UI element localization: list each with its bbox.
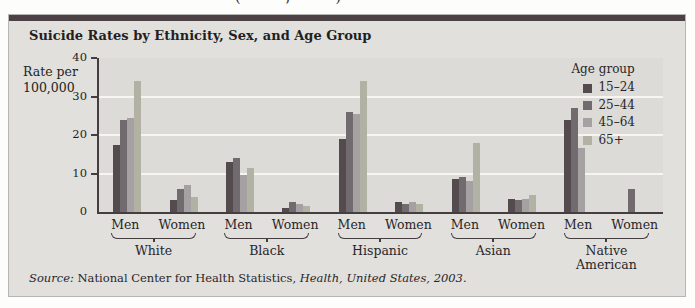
sex-label: Men [210, 217, 267, 232]
sex-label: Women [267, 217, 324, 232]
group-brace-black [224, 233, 309, 239]
bar-65+ [191, 197, 198, 212]
sex-label-pair-hispanic: MenWomen [323, 217, 436, 232]
legend-item-45–64: 45–64 [583, 114, 635, 131]
y-tick-label: 0 [80, 204, 87, 218]
y-tick-mark [91, 134, 97, 136]
y-axis-labels: 010203040 [63, 58, 91, 212]
y-tick-mark [91, 57, 97, 59]
legend-swatch [583, 84, 592, 93]
y-tick-label: 40 [72, 50, 87, 64]
chart-region: 010203040 Age group 15–2425–4445–6465+ M… [97, 58, 663, 273]
bar-45–64 [240, 175, 247, 212]
y-tick-mark [91, 96, 97, 98]
y-tick-label: 30 [72, 89, 87, 103]
ethnic-group-white [99, 58, 212, 212]
brace-row [97, 233, 663, 242]
bar-15–24 [113, 145, 120, 212]
sex-label: Men [550, 217, 607, 232]
ethnicity-label-text: Asian [476, 244, 511, 258]
y-tick-label: 20 [72, 127, 87, 141]
sex-label-pair-white: MenWomen [97, 217, 210, 232]
legend: Age group 15–2425–4445–6465+ [571, 61, 635, 149]
bar-15–24 [282, 208, 289, 212]
source-line: Source: National Center for Health Stati… [29, 271, 467, 285]
bar-15–24 [564, 120, 571, 212]
bar-15–24 [508, 199, 515, 212]
figure-page: ( , ) Suicide Rates by Ethnicity, Sex, a… [0, 0, 695, 308]
ethnicity-label-black: Black [210, 244, 323, 273]
group-brace-hispanic [338, 233, 423, 239]
y-tick-label: 10 [72, 166, 87, 180]
bar-cluster-white-women [155, 58, 211, 212]
sex-label: Women [493, 217, 550, 232]
chart-title: Suicide Rates by Ethnicity, Sex, and Age… [29, 28, 371, 43]
ethnicity-label-native-american: Native American [550, 244, 663, 273]
bar-45–64 [578, 148, 585, 212]
legend-item-25–44: 25–44 [583, 97, 635, 114]
legend-label: 45–64 [598, 114, 635, 131]
cropped-header-text: ( , ) [235, 0, 375, 9]
bar-cluster-hispanic-women [381, 58, 437, 212]
bar-65+ [247, 168, 254, 212]
legend-label: 65+ [598, 132, 623, 149]
ethnicity-labels: WhiteBlackHispanicAsianNative American [97, 244, 663, 273]
ethnic-group-asian [437, 58, 550, 212]
brace-cell-native-american [550, 233, 663, 242]
group-brace-asian [451, 233, 536, 239]
ethnicity-label-text: Native American [566, 244, 646, 273]
bar-65+ [473, 143, 480, 212]
bar-15–24 [170, 200, 177, 212]
bar-25–44 [233, 158, 240, 212]
bar-cluster-asian-women [494, 58, 550, 212]
bar-15–24 [339, 139, 346, 212]
legend-swatch [583, 118, 592, 127]
bar-65+ [360, 81, 367, 212]
source-middle: National Center for Health Statistics, [74, 271, 300, 285]
sex-label-pair-native-american: MenWomen [550, 217, 663, 232]
x-labels: MenWomenMenWomenMenWomenMenWomenMenWomen [97, 217, 663, 232]
ethnicity-label-hispanic: Hispanic [323, 244, 436, 273]
legend-title: Age group [571, 61, 635, 78]
group-brace-white [111, 233, 196, 239]
bar-cluster-asian-men [437, 58, 493, 212]
bar-25–44 [346, 112, 353, 212]
ethnicity-label-text: Black [249, 244, 284, 258]
sex-label: Men [437, 217, 494, 232]
legend-label: 15–24 [598, 79, 635, 96]
bar-65+ [134, 81, 141, 212]
bar-45–64 [296, 204, 303, 212]
chart-panel: Suicide Rates by Ethnicity, Sex, and Age… [8, 14, 686, 297]
sex-label: Women [154, 217, 211, 232]
bar-45–64 [353, 114, 360, 212]
source-suffix: . [463, 271, 467, 285]
bar-25–44 [515, 200, 522, 212]
bar-25–44 [120, 120, 127, 212]
source-prefix: Source: [29, 271, 74, 285]
ethnicity-label-text: White [135, 244, 172, 258]
bar-65+ [303, 206, 310, 212]
bar-65+ [416, 204, 423, 212]
legend-item-15–24: 15–24 [583, 79, 635, 96]
sex-label-pair-black: MenWomen [210, 217, 323, 232]
bar-25–44 [177, 189, 184, 212]
sex-label: Women [380, 217, 437, 232]
legend-swatch [583, 101, 592, 110]
sex-label-pair-asian: MenWomen [437, 217, 550, 232]
ethnicity-label-white: White [97, 244, 210, 273]
y-tick-mark [91, 173, 97, 175]
ethnicity-label-asian: Asian [437, 244, 550, 273]
bar-15–24 [452, 179, 459, 212]
brace-cell-asian [437, 233, 550, 242]
source-citation: Health, United States, 2003 [300, 271, 463, 285]
brace-cell-white [97, 233, 210, 242]
bar-cluster-black-women [268, 58, 324, 212]
bar-cluster-hispanic-men [325, 58, 381, 212]
panel-accent-bar [9, 15, 685, 21]
bar-cluster-black-men [212, 58, 268, 212]
sex-label: Women [606, 217, 663, 232]
ethnicity-label-text: Hispanic [352, 244, 408, 258]
bar-25–44 [628, 189, 635, 212]
brace-cell-black [210, 233, 323, 242]
sex-label: Men [97, 217, 154, 232]
